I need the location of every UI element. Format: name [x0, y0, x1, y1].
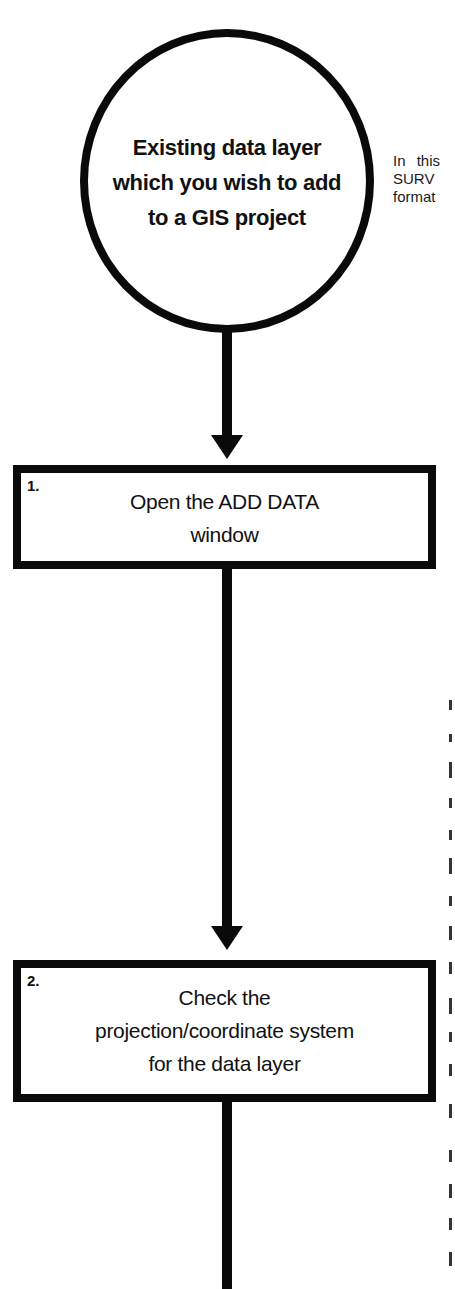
step-box-2: 2. Check the projection/coordinate syste… — [13, 960, 436, 1102]
step-1-label-line-1: Open the ADD DATA — [21, 485, 428, 518]
side-note-line-3: format — [393, 188, 455, 206]
start-node-label: Existing data layer which you wish to ad… — [112, 130, 342, 235]
side-note-text: In this SURV format — [393, 152, 455, 206]
arrow-down-icon — [211, 435, 243, 459]
side-note-line-1: In this — [393, 152, 455, 170]
step-2-label-line-2: projection/coordinate system — [21, 1014, 428, 1047]
connector-line-start-to-step-1 — [222, 331, 232, 437]
step-1-label-line-2: window — [21, 518, 428, 551]
step-box-1: 1. Open the ADD DATA window — [13, 465, 436, 569]
connector-line-step-1-to-step-2 — [222, 569, 232, 928]
side-note-line-2: SURV — [393, 170, 455, 188]
step-2-label-line-1: Check the — [21, 981, 428, 1014]
truncated-text-fragments — [449, 700, 455, 1289]
arrow-down-icon — [211, 926, 243, 950]
start-node-circle: Existing data layer which you wish to ad… — [80, 29, 374, 333]
step-2-label-line-3: for the data layer — [21, 1047, 428, 1080]
connector-line-step-2-continues — [222, 1102, 232, 1289]
